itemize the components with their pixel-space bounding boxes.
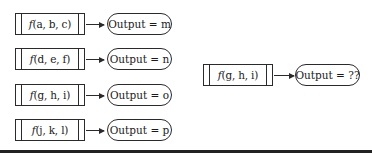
function-box: f(a, b, c) (15, 13, 85, 35)
function-box: f(j, k, l) (15, 119, 85, 141)
function-label: f(d, e, f) (22, 49, 78, 69)
output-pill: Output = o (107, 84, 172, 106)
output-pill: Output = p (107, 119, 172, 141)
query-output-pill: Output = ?? (295, 64, 360, 86)
function-args: (g, h, i) (34, 89, 71, 101)
function-args: (d, e, f) (34, 53, 71, 65)
arrowhead-icon (99, 93, 105, 99)
output-pill: Output = m (107, 13, 172, 35)
arrowhead-icon (99, 128, 105, 134)
arrowhead-icon (99, 57, 105, 63)
arrow (86, 24, 104, 25)
function-label: f(g, h, i) (22, 85, 78, 105)
function-label: f(a, b, c) (22, 14, 78, 34)
arrow (274, 75, 294, 76)
output-pill: Output = n (107, 48, 172, 70)
box-right-bar (78, 14, 79, 34)
bottom-border (0, 150, 372, 153)
function-box: f(g, h, i) (15, 84, 85, 106)
query-function-box: f(g, h, i) (203, 64, 273, 86)
arrow (86, 130, 104, 131)
function-box: f(d, e, f) (15, 48, 85, 70)
function-label: f(g, h, i) (210, 65, 266, 85)
box-right-bar (78, 49, 79, 69)
function-label: f(j, k, l) (22, 120, 78, 140)
arrow (86, 95, 104, 96)
function-args: (a, b, c) (33, 18, 72, 30)
box-right-bar (266, 65, 267, 85)
arrowhead-icon (99, 22, 105, 28)
box-right-bar (78, 120, 79, 140)
arrow (86, 59, 104, 60)
function-args: (j, k, l) (35, 124, 68, 136)
function-args: (g, h, i) (222, 69, 259, 81)
box-right-bar (78, 85, 79, 105)
